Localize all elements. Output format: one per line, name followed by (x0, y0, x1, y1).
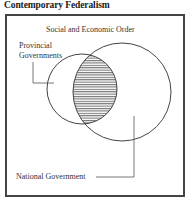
venn-diagram (0, 0, 191, 198)
national-leader-line (96, 116, 134, 177)
